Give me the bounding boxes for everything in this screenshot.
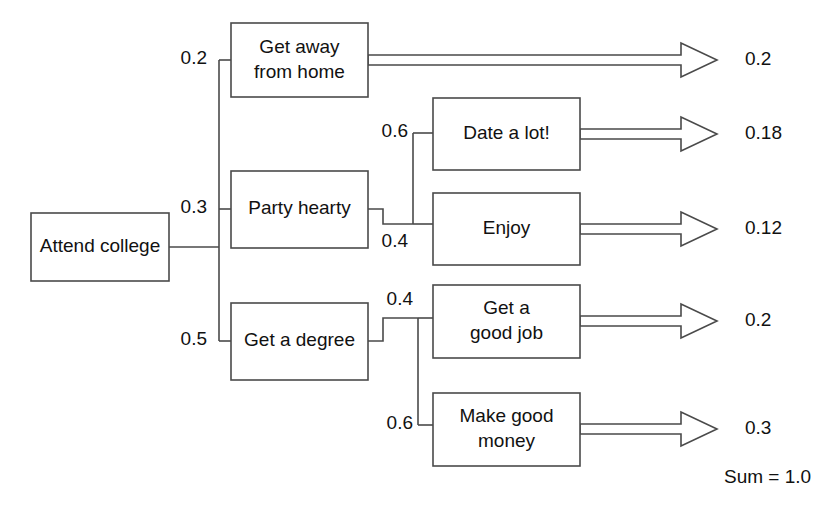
node-label-good-job-line1: Get a: [483, 297, 530, 318]
node-party-hearty[interactable]: Party hearty: [231, 171, 368, 248]
arrow-outcome-money: [580, 412, 717, 446]
outcome-value-enjoy: 0.12: [745, 217, 782, 238]
prob-label-get-a-degree: 0.5: [181, 328, 207, 349]
node-make-good-money[interactable]: Make good money: [433, 393, 580, 466]
node-label-party-hearty: Party hearty: [248, 197, 351, 218]
node-date-a-lot[interactable]: Date a lot!: [433, 98, 580, 170]
get-a-degree-exit-line: [368, 318, 418, 341]
probability-tree-diagram: Attend college Get away from home Party …: [0, 0, 833, 525]
tree-canvas: Attend college Get away from home Party …: [0, 0, 833, 525]
node-get-a-good-job[interactable]: Get a good job: [433, 285, 580, 358]
node-label-get-away-line2: from home: [254, 61, 345, 82]
prob-label-date-a-lot: 0.6: [382, 120, 408, 141]
prob-label-enjoy: 0.4: [382, 230, 409, 251]
outcome-value-money: 0.3: [745, 417, 771, 438]
node-label-money-line2: money: [478, 430, 536, 451]
party-hearty-connectors: [368, 133, 433, 224]
outcome-value-date-a-lot: 0.18: [745, 122, 782, 143]
prob-label-party-hearty: 0.3: [181, 196, 207, 217]
party-hearty-exit-line: [368, 209, 413, 224]
node-label-get-away-line1: Get away: [259, 36, 340, 57]
arrow-outcome-enjoy: [580, 212, 717, 246]
prob-label-get-away: 0.2: [181, 47, 207, 68]
get-a-degree-connectors: [368, 318, 433, 425]
outcome-value-labels: 0.2 0.18 0.12 0.2 0.3: [745, 48, 782, 438]
node-box-get-away-from-home: [231, 23, 368, 97]
node-label-get-a-degree: Get a degree: [244, 329, 355, 350]
prob-label-make-good-money: 0.6: [387, 412, 413, 433]
node-label-good-job-line2: good job: [470, 322, 543, 343]
node-get-a-degree[interactable]: Get a degree: [231, 303, 368, 380]
node-label-date-a-lot: Date a lot!: [463, 122, 550, 143]
arrow-outcome-good-job: [580, 304, 717, 338]
arrow-outcome-get-away: [368, 43, 717, 77]
node-label-money-line1: Make good: [459, 405, 553, 426]
node-attend-college[interactable]: Attend college: [31, 213, 169, 281]
outcome-value-good-job: 0.2: [745, 309, 771, 330]
node-enjoy[interactable]: Enjoy: [433, 193, 580, 265]
node-get-away-from-home[interactable]: Get away from home: [231, 23, 368, 97]
node-label-enjoy: Enjoy: [483, 217, 531, 238]
arrow-outcome-date-a-lot: [580, 117, 717, 151]
prob-label-get-a-good-job: 0.4: [387, 288, 414, 309]
sum-annotation: Sum = 1.0: [724, 466, 811, 487]
node-label-attend-college: Attend college: [40, 235, 160, 256]
outcome-value-get-away: 0.2: [745, 48, 771, 69]
